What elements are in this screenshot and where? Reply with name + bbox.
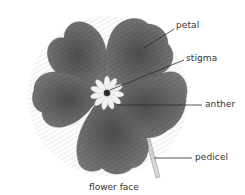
label-stigma: stigma xyxy=(186,54,217,63)
label-petal: petal xyxy=(176,21,199,30)
stigma-center xyxy=(104,90,110,96)
diagram-caption: flower face xyxy=(89,183,139,192)
label-anther: anther xyxy=(205,100,235,109)
flower-diagram: petal stigma anther pedicel flower face xyxy=(0,0,245,195)
flower-illustration xyxy=(0,0,245,195)
label-pedicel: pedicel xyxy=(195,153,228,162)
